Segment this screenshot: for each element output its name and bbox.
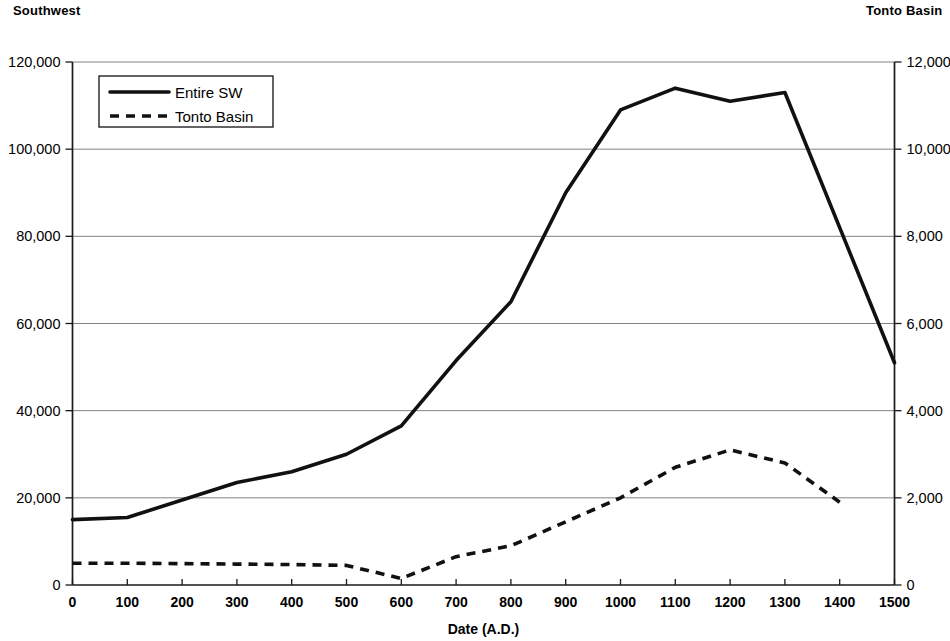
x-tick-label: 500	[335, 594, 359, 610]
x-tick-label: 900	[554, 594, 578, 610]
data-series-layer	[73, 88, 895, 578]
y-left-tick-label: 100,000	[8, 141, 60, 157]
series-line-entire-sw	[73, 88, 895, 519]
series-line-tonto-basin	[73, 450, 840, 579]
x-tick-label: 0	[69, 594, 77, 610]
x-tick-label: 1400	[824, 594, 855, 610]
y-left-tick-label: 80,000	[16, 228, 60, 244]
x-tick-label: 800	[499, 594, 523, 610]
x-tick-label: 1100	[660, 594, 691, 610]
legend-label: Entire SW	[175, 84, 243, 101]
y-right-tick-label: 0	[907, 577, 915, 593]
y-right-tick-label: 4,000	[907, 403, 943, 419]
y-axis-right-labels: 02,0004,0006,0008,00010,00012,000	[907, 54, 950, 593]
chart-legend: Entire SWTonto Basin	[99, 76, 273, 127]
x-tick-label: 400	[280, 594, 304, 610]
y-left-tick-label: 40,000	[16, 403, 60, 419]
y-left-tick-label: 120,000	[8, 54, 60, 70]
y-right-tick-label: 8,000	[907, 228, 943, 244]
y-right-tick-label: 2,000	[907, 490, 943, 506]
y-left-tick-label: 60,000	[16, 316, 60, 332]
x-tick-label: 100	[116, 594, 140, 610]
y-right-tick-label: 12,000	[907, 54, 950, 70]
x-tick-label: 1000	[605, 594, 636, 610]
x-axis-title: Date (A.D.)	[448, 621, 520, 637]
y-left-tick-label: 20,000	[16, 490, 60, 506]
y-right-tick-label: 10,000	[907, 141, 950, 157]
x-axis-labels: 0100200300400500600700800900100011001200…	[69, 594, 911, 610]
y-left-tick-label: 0	[52, 577, 60, 593]
x-tick-label: 1200	[715, 594, 746, 610]
chart-figure: Southwest Tonto Basin 020,00040,00060,00…	[0, 0, 950, 641]
x-tick-label: 1500	[879, 594, 910, 610]
x-tick-label: 600	[390, 594, 414, 610]
population-line-chart: 020,00040,00060,00080,000100,000120,000 …	[0, 0, 950, 641]
y-axis-left-labels: 020,00040,00060,00080,000100,000120,000	[8, 54, 60, 593]
x-tick-label: 1300	[769, 594, 800, 610]
x-tick-label: 300	[225, 594, 249, 610]
legend-label: Tonto Basin	[175, 108, 253, 125]
y-right-tick-label: 6,000	[907, 316, 943, 332]
x-tick-label: 200	[170, 594, 194, 610]
x-tick-label: 700	[444, 594, 468, 610]
